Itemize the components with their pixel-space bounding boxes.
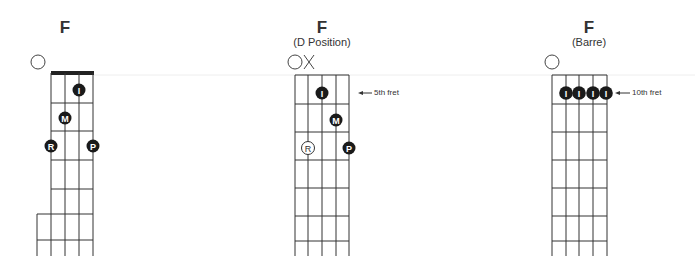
- nut: [51, 71, 94, 75]
- svg-text:I: I: [565, 89, 568, 99]
- svg-text:R: R: [48, 142, 55, 152]
- chord-diagram-f: [31, 55, 94, 256]
- finger-dots-f-barre: I I I I: [559, 86, 630, 100]
- finger-dots-f-d-position: I M R P: [302, 87, 373, 155]
- finger-dots-f: I M R P: [45, 84, 100, 153]
- fret-position-label-10th: 10th fret: [632, 88, 661, 97]
- fret-arrow-icon: [615, 91, 630, 95]
- svg-text:R: R: [305, 144, 312, 154]
- svg-text:I: I: [78, 86, 81, 96]
- svg-text:I: I: [592, 89, 595, 99]
- muted-string-icon: [304, 55, 314, 69]
- open-string-icon: [288, 55, 302, 69]
- svg-text:P: P: [346, 144, 352, 154]
- chord-diagram-f-d-position: [288, 55, 349, 256]
- svg-text:M: M: [332, 116, 340, 126]
- svg-text:I: I: [321, 89, 324, 99]
- svg-text:I: I: [605, 89, 608, 99]
- open-string-icon: [31, 55, 45, 69]
- open-string-icon: [545, 55, 559, 69]
- chord-diagram-f-barre: [545, 55, 607, 256]
- svg-text:I: I: [578, 89, 581, 99]
- svg-text:M: M: [61, 114, 69, 124]
- svg-text:P: P: [90, 142, 96, 152]
- fret-arrow-icon: [358, 91, 372, 95]
- fret-position-label-5th: 5th fret: [374, 88, 399, 97]
- chord-diagrams-canvas: I M R P I M R P: [0, 0, 695, 264]
